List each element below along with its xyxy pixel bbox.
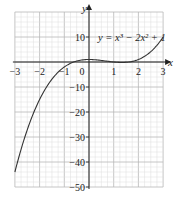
x-tick-label: 3 [161,66,166,77]
x-tick-label: 1 [111,66,116,77]
y-tick-label: 10 [75,32,85,43]
plot-area: −3−2−1012310−10−20−30−40−50 y = x³ − 2x²… [0,0,175,201]
y-tick-label: −30 [69,132,85,143]
y-axis-arrow-icon [86,4,92,10]
equation-label: y = x³ − 2x² + 1 [97,32,166,43]
x-tick-label: −3 [10,66,21,77]
x-axis-label: x [167,56,173,68]
cubic-function-graph: −3−2−1012310−10−20−30−40−50 y = x³ − 2x²… [0,0,175,201]
x-tick-label: −2 [34,66,45,77]
y-axis-label: y [81,2,87,14]
x-tick-label: 0 [80,66,85,77]
y-tick-label: −20 [69,107,85,118]
y-tick-label: −50 [69,182,85,193]
y-tick-label: −10 [69,82,85,93]
x-tick-label: 2 [136,66,141,77]
y-tick-label: −40 [69,157,85,168]
